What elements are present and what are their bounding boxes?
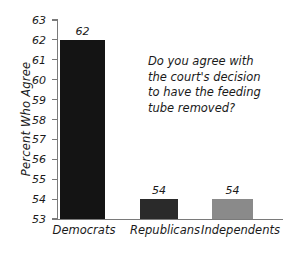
- survey-question-annotation: Do you agree withthe court's decisionto …: [148, 54, 278, 116]
- y-axis-tick-label: 54: [14, 193, 46, 206]
- y-axis-tick: [52, 119, 58, 120]
- annotation-line: to have the feeding: [148, 85, 278, 101]
- y-axis-tick: [52, 179, 58, 180]
- bar-value-label: 54: [212, 184, 253, 197]
- y-axis-tick-label: 57: [14, 133, 46, 146]
- x-axis-category-label: Democrats: [45, 223, 123, 237]
- y-axis-tick: [52, 199, 58, 200]
- y-axis-tick-label: 58: [14, 113, 46, 126]
- y-axis-tick: [52, 39, 58, 40]
- y-axis-tick-label: 56: [14, 153, 46, 166]
- x-axis-category-label: Independents: [198, 223, 283, 237]
- annotation-line: tube removed?: [148, 101, 278, 117]
- y-axis-tick-label: 62: [14, 33, 46, 46]
- bar-value-label: 54: [140, 184, 178, 197]
- y-axis-tick-label: 53: [14, 213, 46, 226]
- y-axis-tick-label: 59: [14, 93, 46, 106]
- y-axis-tick: [52, 159, 58, 160]
- y-axis-tick: [52, 139, 58, 140]
- annotation-line: Do you agree with: [148, 54, 278, 70]
- bar-democrats: [60, 40, 105, 219]
- bar-value-label: 62: [60, 25, 105, 38]
- y-axis-tick-label: 60: [14, 73, 46, 86]
- y-axis-tick: [52, 79, 58, 80]
- y-axis-tick: [52, 218, 58, 219]
- x-axis-category-label: Republicans: [124, 223, 206, 237]
- y-axis-tick-label: 55: [14, 173, 46, 186]
- bar-independents: [212, 199, 253, 219]
- y-axis-tick-label: 61: [14, 53, 46, 66]
- y-axis-tick: [52, 59, 58, 60]
- y-axis-tick: [52, 99, 58, 100]
- bar-republicans: [140, 199, 178, 219]
- annotation-line: the court's decision: [148, 70, 278, 86]
- x-axis-line: [57, 219, 283, 220]
- bar-chart: Percent Who Agree 5354555657585960616263…: [0, 0, 283, 255]
- y-axis-tick: [52, 19, 58, 20]
- y-axis-tick-label: 63: [14, 14, 46, 27]
